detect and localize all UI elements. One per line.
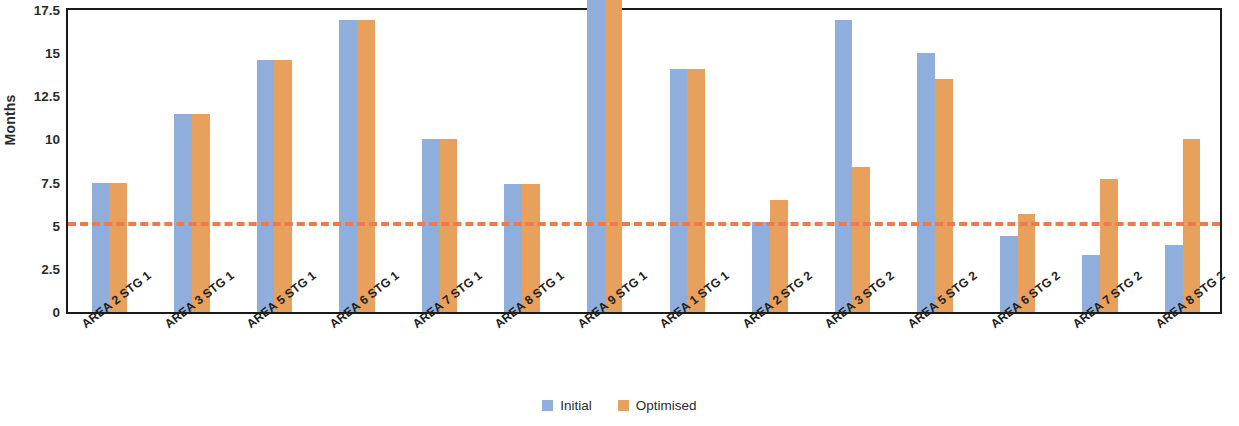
legend-label: Initial xyxy=(560,398,592,413)
bar-group xyxy=(1165,10,1201,312)
bar-optimised xyxy=(274,60,292,312)
x-axis-tick-labels: AREA 2 STG 1AREA 3 STG 1AREA 5 STG 1AREA… xyxy=(66,314,1222,392)
bar-group xyxy=(504,10,540,312)
y-tick-label: 7.5 xyxy=(8,175,60,190)
bar-group xyxy=(670,10,706,312)
bar-optimised xyxy=(935,79,953,312)
chart-legend: InitialOptimised xyxy=(0,398,1239,413)
y-tick-label: 10 xyxy=(8,132,60,147)
bar-initial xyxy=(257,60,275,312)
bar-optimised xyxy=(605,0,623,312)
bar-initial xyxy=(92,183,110,312)
bar-optimised xyxy=(192,114,210,312)
bar-group xyxy=(174,10,210,312)
bar-chart: Months 02.557.51012.51517.5 AREA 2 STG 1… xyxy=(0,0,1239,426)
y-axis-tick-labels: 02.557.51012.51517.5 xyxy=(0,0,60,426)
bar-group xyxy=(92,10,128,312)
bar-initial xyxy=(835,20,853,312)
legend-item[interactable]: Optimised xyxy=(618,398,697,413)
legend-item[interactable]: Initial xyxy=(542,398,592,413)
bar-group xyxy=(917,10,953,312)
bar-group xyxy=(1000,10,1036,312)
bar-initial xyxy=(587,0,605,312)
bar-initial xyxy=(339,20,357,312)
y-tick-label: 15 xyxy=(8,46,60,61)
legend-label: Optimised xyxy=(636,398,697,413)
bar-group xyxy=(752,10,788,312)
y-tick-label: 0 xyxy=(8,305,60,320)
bar-group xyxy=(1082,10,1118,312)
bar-initial xyxy=(670,69,688,312)
bar-initial xyxy=(917,53,935,312)
legend-swatch-icon xyxy=(542,400,553,411)
bar-group xyxy=(257,10,293,312)
bar-initial xyxy=(504,184,522,312)
bars-layer xyxy=(68,10,1220,312)
y-tick-label: 12.5 xyxy=(8,89,60,104)
bar-group xyxy=(835,10,871,312)
bar-initial xyxy=(174,114,192,312)
bar-group xyxy=(339,10,375,312)
bar-initial xyxy=(422,139,440,312)
y-tick-label: 5 xyxy=(8,218,60,233)
bar-group xyxy=(422,10,458,312)
bar-group xyxy=(587,10,623,312)
legend-swatch-icon xyxy=(618,400,629,411)
bar-optimised xyxy=(687,69,705,312)
y-tick-label: 17.5 xyxy=(8,3,60,18)
y-tick-label: 2.5 xyxy=(8,261,60,276)
bar-optimised xyxy=(357,20,375,312)
plot-area xyxy=(66,8,1222,314)
